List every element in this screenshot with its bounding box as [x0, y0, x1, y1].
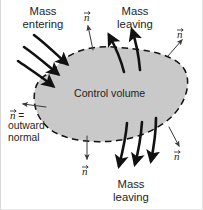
- normal-bottom-right-symbol: n: [174, 150, 180, 162]
- mass-entering-label: Mass entering: [8, 5, 78, 31]
- normal-top-center-symbol: n: [84, 11, 90, 23]
- normal-bottom-center-symbol: n: [82, 165, 88, 177]
- normal-leader-bottom-right: [169, 127, 179, 146]
- control-volume-figure: Mass entering Mass leaving Control volum…: [0, 0, 203, 210]
- normal-left-symbol: n =: [10, 109, 24, 121]
- outward-normal-text: outward normal: [8, 120, 45, 144]
- mass-leaving-top-label: Mass leaving: [104, 5, 166, 31]
- vector-arrow-icon: [174, 149, 181, 154]
- normal-leader-top-center: [88, 26, 93, 50]
- normal-leader-top-right: [168, 40, 182, 56]
- vector-arrow-icon: [82, 164, 89, 169]
- vector-arrow-icon: [84, 10, 91, 15]
- normal-top-right-symbol: n: [177, 28, 183, 40]
- control-volume-label: Control volume: [74, 87, 145, 99]
- vector-arrow-icon: [10, 108, 17, 113]
- vector-arrow-icon: [177, 27, 184, 32]
- mass-leaving-bottom-label: Mass leaving: [100, 178, 162, 204]
